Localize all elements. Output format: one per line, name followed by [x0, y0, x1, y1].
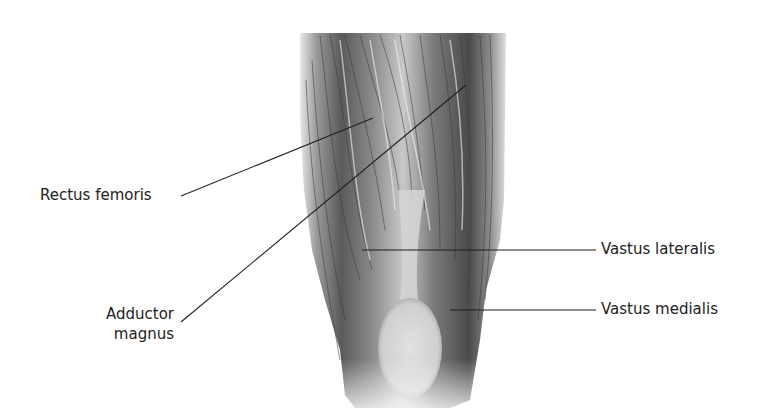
- label-adductor-magnus-line1: Adductor: [60, 305, 174, 323]
- label-adductor-magnus-line2: magnus: [60, 325, 174, 343]
- label-vastus-medialis: Vastus medialis: [601, 300, 718, 318]
- anatomy-diagram: Rectus femoris Adductor magnus Vastus la…: [0, 0, 777, 417]
- thigh-illustration: [0, 0, 777, 417]
- label-adductor-magnus: Adductor magnus: [60, 305, 174, 343]
- label-rectus-femoris: Rectus femoris: [40, 186, 152, 204]
- label-vastus-lateralis: Vastus lateralis: [601, 240, 715, 258]
